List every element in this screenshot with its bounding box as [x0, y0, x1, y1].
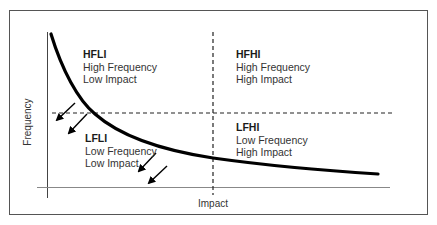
- quadrant-lfhi: LFHI Low Frequency High Impact: [236, 121, 309, 158]
- x-axis-label: Impact: [198, 198, 228, 209]
- quadrant-title: LFHI: [236, 121, 259, 133]
- risk-quadrant-diagram: HFLI High Frequency Low Impact HFHI High…: [0, 0, 437, 225]
- y-axis-label: Frequency: [22, 98, 33, 145]
- arrow-icon: [69, 114, 87, 133]
- arrow-icon: [57, 103, 75, 120]
- quadrant-hfli: HFLI High Frequency Low Impact: [83, 48, 158, 85]
- arrow-icon: [149, 166, 167, 183]
- quadrant-impact: Low Impact: [83, 73, 137, 85]
- quadrant-frequency: Low Frequency: [85, 145, 158, 157]
- quadrant-title: HFLI: [83, 48, 106, 60]
- quadrant-title: LFLI: [85, 132, 107, 144]
- quadrant-frequency: Low Frequency: [236, 134, 309, 146]
- quadrant-hfhi: HFHI High Frequency High Impact: [236, 48, 311, 85]
- quadrant-impact: High Impact: [236, 146, 292, 158]
- diagram-frame: [10, 11, 428, 215]
- quadrant-frequency: High Frequency: [236, 61, 311, 73]
- quadrant-impact: High Impact: [236, 73, 292, 85]
- quadrant-title: HFHI: [236, 48, 261, 60]
- quadrant-frequency: High Frequency: [83, 61, 158, 73]
- quadrant-impact: Low Impact: [85, 157, 139, 169]
